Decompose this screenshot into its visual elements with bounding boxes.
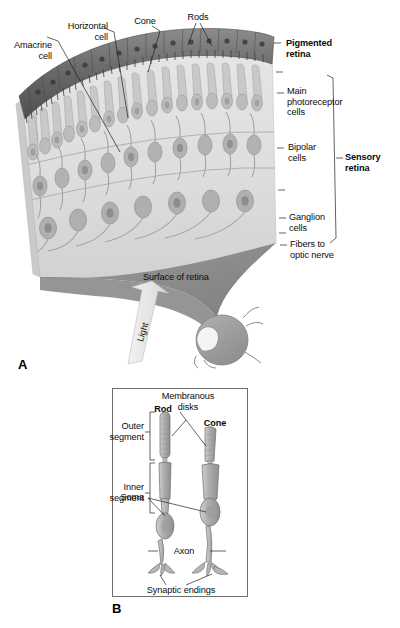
label-synaptic-endings: Synaptic endings: [137, 585, 225, 596]
label-axon: Axon: [164, 546, 204, 557]
panel-b-letter: B: [112, 601, 121, 616]
label-outer-segment: Outer segment: [92, 421, 144, 442]
label-rod: Rod: [148, 404, 178, 415]
label-cone-b: Cone: [198, 418, 232, 429]
figure-canvas: Amacrine cell Horizontal cell Cone Rods …: [0, 0, 400, 628]
label-soma: Soma: [104, 492, 144, 503]
photoreceptor-detail-illustration: [0, 0, 400, 628]
